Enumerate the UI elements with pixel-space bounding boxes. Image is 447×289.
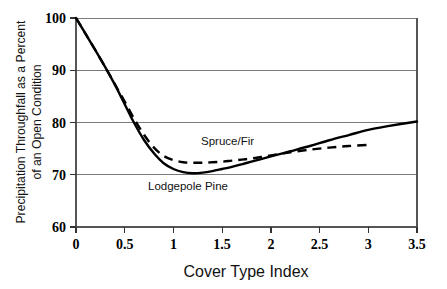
series-line-lodgepole-pine [76, 18, 417, 173]
gridlines [76, 18, 417, 175]
y-tick-label-90: 90 [52, 63, 66, 78]
y-axis-title-line1: Precipitation Throughfall as a Percent [14, 20, 28, 224]
x-tickmarks [76, 227, 417, 233]
chart-figure: 100 90 80 70 60 0 0.5 1 1.5 2 2.5 3 3.5 … [0, 0, 447, 289]
annotation-spruce-fir: Spruce/Fir [201, 135, 254, 147]
y-tick-label-60: 60 [52, 220, 66, 235]
data-series [76, 18, 417, 173]
y-axis-title-line2: of an Open Condition [30, 64, 44, 179]
x-tick-label-0: 0 [73, 237, 80, 252]
y-tick-label-100: 100 [45, 11, 66, 26]
y-tickmarks [70, 18, 76, 227]
y-tick-label-70: 70 [52, 168, 66, 183]
x-tick-label-3.5: 3.5 [408, 237, 426, 252]
x-tick-labels: 0 0.5 1 1.5 2 2.5 3 3.5 [73, 237, 426, 252]
y-axis-title: Precipitation Throughfall as a Percent o… [14, 20, 44, 224]
x-tick-label-0.5: 0.5 [116, 237, 134, 252]
x-tick-label-2: 2 [267, 237, 274, 252]
x-tick-label-1: 1 [170, 237, 177, 252]
throughfall-line-chart: 100 90 80 70 60 0 0.5 1 1.5 2 2.5 3 3.5 … [0, 0, 447, 289]
x-tick-label-1.5: 1.5 [213, 237, 231, 252]
x-tick-label-3: 3 [365, 237, 372, 252]
x-axis-title: Cover Type Index [183, 263, 308, 280]
y-tick-labels: 100 90 80 70 60 [45, 11, 66, 235]
x-tick-label-2.5: 2.5 [311, 237, 329, 252]
y-tick-label-80: 80 [52, 116, 66, 131]
annotation-lodgepole-pine: Lodgepole Pine [148, 180, 228, 192]
